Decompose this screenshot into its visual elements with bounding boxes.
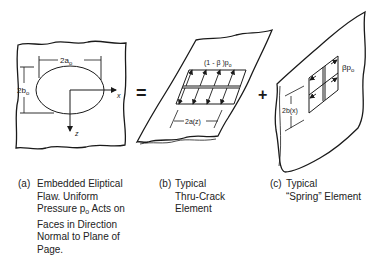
caption-b-tag: (b)	[159, 178, 171, 191]
spring-grid	[309, 56, 338, 113]
caption-b-line: Typical	[175, 178, 225, 191]
dim-2bx: 2b(x)	[282, 107, 298, 115]
element-grid	[176, 70, 246, 104]
caption-a-line: Faces in Direction	[37, 219, 125, 232]
pressure-label-beta-po: βpo	[342, 63, 355, 73]
caption-a-line: Page.	[37, 244, 125, 255]
equals-sign: =	[136, 83, 147, 103]
caption-c-tag: (c)	[270, 178, 282, 191]
caption-a-line: Embedded Eliptical	[37, 178, 125, 191]
plus-sign: +	[258, 86, 267, 103]
panel-a-embedded-flaw: 2ao 2bo x z	[16, 41, 126, 149]
pressure-label-1-beta-po: (1 - β )po	[204, 59, 232, 68]
dim-2bo: 2bo	[17, 86, 30, 96]
panel-b-thru-crack-element: (1 - β )po 2a(z)	[137, 30, 272, 144]
plate-outline	[16, 41, 126, 149]
axis-x-label: x	[116, 92, 121, 99]
caption-b-line: Element	[175, 203, 225, 216]
caption-c-line: Typical	[286, 178, 361, 191]
caption-a-tag: (a)	[18, 178, 30, 191]
axis-z-label: z	[74, 130, 79, 137]
caption-a-line: Pressure po Acts on	[37, 203, 125, 219]
plate-outline	[275, 12, 365, 172]
caption-a-line: Normal to Plane of	[37, 231, 125, 244]
caption-b-line: Thru-Crack	[175, 191, 225, 204]
dim-2ao: 2ao	[60, 56, 73, 66]
caption-a-line: Flaw. Uniform	[37, 191, 125, 204]
caption-c-line: “Spring” Element	[286, 191, 361, 204]
dim-2az: 2a(z)	[185, 118, 201, 126]
panel-c-spring-element: βpo 2b(x)	[275, 12, 365, 172]
